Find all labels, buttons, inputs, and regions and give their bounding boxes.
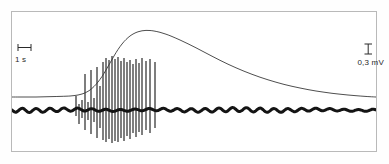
emg-baseline-trace xyxy=(12,108,377,113)
time-scalebar-label: 1 s xyxy=(14,55,48,64)
amplitude-scalebar: 0,3 mV xyxy=(345,42,385,72)
action-potential-burst xyxy=(76,56,155,143)
figure-root: 1 s 0,3 mV xyxy=(0,0,389,164)
horizontal-scalebar-icon xyxy=(16,42,34,53)
slow-potential-curve xyxy=(12,30,377,97)
time-scalebar: 1 s xyxy=(14,42,48,70)
plot-frame xyxy=(11,11,377,152)
recording-trace-svg xyxy=(12,12,377,152)
amplitude-scalebar-label: 0,3 mV xyxy=(345,58,385,67)
vertical-scalebar-icon xyxy=(362,42,375,56)
